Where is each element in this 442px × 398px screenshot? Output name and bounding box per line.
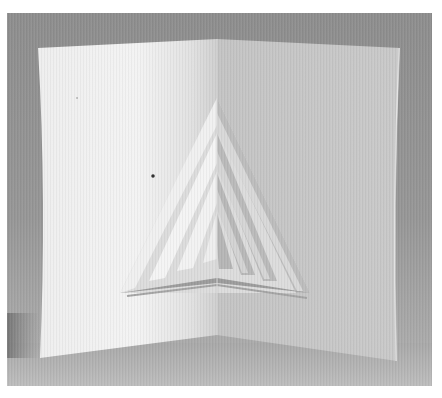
photo-frame — [7, 13, 432, 386]
pop-up-card-illustration — [7, 13, 432, 386]
speck — [151, 174, 155, 178]
cast-shadow — [7, 313, 40, 358]
speck-small — [76, 97, 78, 99]
